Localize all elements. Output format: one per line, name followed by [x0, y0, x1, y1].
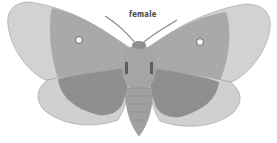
- thorax-mark-right: [150, 62, 153, 74]
- right-eyespot: [197, 39, 204, 46]
- moth-illustration: female: [0, 0, 277, 143]
- left-forewing-inner: [50, 8, 130, 78]
- caption-label: female: [129, 9, 157, 19]
- head: [132, 41, 146, 49]
- moth-drawing: [0, 0, 277, 143]
- left-eyespot: [76, 37, 83, 44]
- thorax-mark-left: [125, 62, 128, 74]
